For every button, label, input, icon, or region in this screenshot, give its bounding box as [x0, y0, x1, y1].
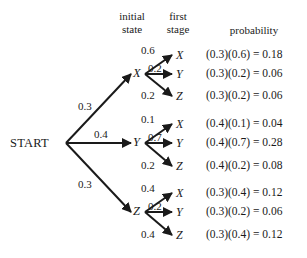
- branch-probability-start-x: 0.3: [78, 101, 92, 112]
- probability-expression-y-x: (0.4)(0.1) = 0.04: [206, 118, 282, 130]
- probability-expression-x-z: (0.3)(0.2) = 0.06: [206, 90, 282, 102]
- state-node-y: Y: [133, 136, 140, 149]
- branch-probability-y-z: 0.2: [141, 160, 155, 171]
- branch-probability-x-z: 0.2: [141, 90, 155, 101]
- branch-probability-start-z: 0.3: [78, 179, 92, 190]
- probability-tree-figure: initial state first stage probability ST…: [0, 0, 307, 258]
- probability-expression-z-y: (0.3)(0.2) = 0.06: [206, 206, 282, 218]
- leaf-node-x-x: X: [176, 49, 183, 61]
- leaf-node-x-z: Z: [176, 90, 183, 102]
- probability-expression-x-x: (0.3)(0.6) = 0.18: [206, 49, 282, 61]
- branch-probability-y-x: 0.1: [141, 114, 155, 125]
- leaf-node-z-y: Y: [176, 206, 183, 218]
- branch-probability-z-z: 0.4: [141, 229, 155, 240]
- branch-probability-y-y: 0.7: [148, 132, 162, 143]
- branch-probability-x-y: 0.2: [148, 63, 162, 74]
- branch-probability-z-y: 0.2: [148, 201, 162, 212]
- probability-expression-y-y: (0.4)(0.7) = 0.28: [206, 137, 282, 149]
- leaf-node-z-z: Z: [176, 229, 183, 241]
- header-probability: probability: [206, 24, 302, 37]
- probability-expression-x-y: (0.3)(0.2) = 0.06: [206, 68, 282, 80]
- branch-probability-start-y: 0.4: [94, 129, 108, 140]
- leaf-node-x-y: Y: [176, 68, 183, 80]
- leaf-node-y-y: Y: [176, 137, 183, 149]
- probability-expression-y-z: (0.4)(0.2) = 0.08: [206, 160, 282, 172]
- edge-start-to-z: [66, 143, 131, 212]
- probability-expression-z-x: (0.3)(0.4) = 0.12: [206, 187, 282, 199]
- leaf-node-y-x: X: [176, 118, 183, 130]
- state-node-z: Z: [133, 205, 140, 218]
- probability-expression-z-z: (0.3)(0.4) = 0.12: [206, 229, 282, 241]
- header-first-stage-line1: first: [152, 10, 204, 23]
- leaf-node-z-x: X: [176, 187, 183, 199]
- branch-probability-x-x: 0.6: [141, 45, 155, 56]
- branch-probability-z-x: 0.4: [141, 183, 155, 194]
- header-first-stage: first stage: [152, 10, 204, 35]
- state-node-x: X: [133, 67, 141, 80]
- start-node-label: START: [10, 137, 49, 150]
- leaf-node-y-z: Z: [176, 160, 183, 172]
- header-first-stage-line2: stage: [152, 23, 204, 36]
